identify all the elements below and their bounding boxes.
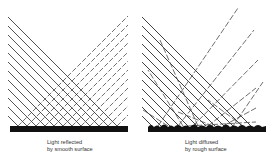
incident-ray xyxy=(142,53,215,126)
rough-surface xyxy=(148,125,266,133)
incident-ray xyxy=(8,80,54,126)
incident-ray xyxy=(142,71,197,126)
rough-caption: Light diffused by rough surface xyxy=(185,139,227,153)
incident-ray xyxy=(8,98,36,126)
incident-ray xyxy=(142,116,152,126)
smooth-caption-line1: Light reflected xyxy=(47,139,93,146)
incident-ray xyxy=(8,44,90,126)
reflected-ray xyxy=(36,34,128,126)
incident-ray xyxy=(8,35,99,126)
incident-ray xyxy=(142,107,161,126)
incident-ray xyxy=(8,53,81,126)
incident-ray xyxy=(8,116,18,126)
rough-surface-panel: Light diffused by rough surface xyxy=(138,0,276,161)
reflected-ray xyxy=(108,106,128,126)
diffused-ray xyxy=(143,110,168,126)
diffused-ray xyxy=(193,60,258,126)
reflected-ray xyxy=(27,25,128,126)
smooth-caption-line2: by smooth surface xyxy=(47,146,93,153)
reflected-ray xyxy=(117,115,128,126)
smooth-reflection-diagram xyxy=(0,0,138,161)
incident-ray xyxy=(8,89,45,126)
reflected-ray xyxy=(81,79,128,126)
diffused-ray xyxy=(188,122,256,126)
smooth-surface xyxy=(10,126,128,132)
incident-ray xyxy=(8,17,117,126)
smooth-caption: Light reflected by smooth surface xyxy=(47,139,93,153)
rough-caption-line1: Light diffused xyxy=(185,139,227,146)
incident-ray xyxy=(8,107,27,126)
incident-ray xyxy=(142,35,233,126)
rough-caption-line2: by rough surface xyxy=(185,146,227,153)
smooth-surface-panel: Light reflected by smooth surface xyxy=(0,0,138,161)
incident-ray xyxy=(142,89,179,126)
incident-ray xyxy=(8,26,108,126)
rough-diffusion-diagram xyxy=(138,0,276,161)
reflected-ray xyxy=(54,52,128,126)
incident-ray xyxy=(142,17,251,126)
diffused-ray xyxy=(233,82,263,126)
diffused-ray xyxy=(158,8,238,126)
